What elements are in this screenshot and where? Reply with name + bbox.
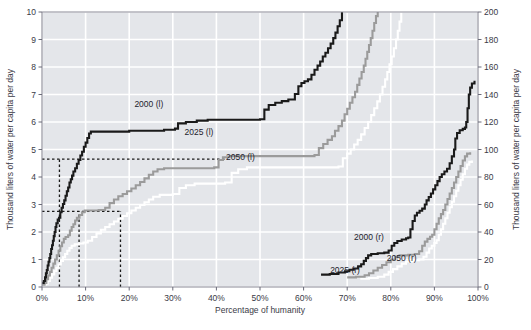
tick-label-right: 80 [484,172,494,182]
tick-label-right: 160 [484,62,498,72]
chart-canvas: 0123456789100204060801001201401601802000… [0,0,531,330]
tick-label-left: 9 [31,35,36,45]
tick-label-right: 140 [484,90,498,100]
tick-label-left: 6 [31,117,36,127]
series-annotation-2000-l: 2000 (l) [134,99,163,109]
tick-label-right: 40 [484,227,494,237]
tick-label-bottom: 90% [426,293,443,303]
tick-label-bottom: 70% [339,293,356,303]
y-axis-label-right: Thousand liters of water per capita per … [511,68,521,230]
tick-label-left: 3 [31,200,36,210]
tick-label-bottom: 80% [382,293,399,303]
tick-label-left: 10 [27,7,37,17]
tick-label-right: 120 [484,117,498,127]
tick-label-left: 5 [31,145,36,155]
series-annotation-2000-r: 2000 (r) [354,232,384,242]
tick-label-bottom: 40% [208,293,225,303]
tick-label-bottom: 20% [121,293,138,303]
chart-figure: 0123456789100204060801001201401601802000… [0,0,531,330]
tick-label-right: 100 [484,145,498,155]
tick-label-left: 7 [31,90,36,100]
tick-label-bottom: 100% [467,293,489,303]
series-annotation-2050-r: 2050 (r) [387,253,417,263]
tick-label-right: 0 [484,282,489,292]
series-annotation-2025-r: 2025 (r) [330,265,360,275]
tick-label-right: 20 [484,255,494,265]
tick-label-bottom: 0% [36,293,49,303]
tick-label-left: 4 [31,172,36,182]
tick-label-bottom: 60% [295,293,312,303]
tick-label-right: 60 [484,200,494,210]
tick-label-left: 2 [31,227,36,237]
tick-label-right: 180 [484,35,498,45]
series-annotation-2050-l: 2050 (l) [226,152,255,162]
tick-label-bottom: 50% [251,293,268,303]
tick-label-bottom: 30% [164,293,181,303]
tick-label-left: 0 [31,282,36,292]
tick-label-left: 8 [31,62,36,72]
series-annotation-2025-l: 2025 (l) [185,127,214,137]
tick-label-right: 200 [484,7,498,17]
tick-label-left: 1 [31,255,36,265]
tick-label-bottom: 10% [77,293,94,303]
y-axis-label-left: Thousand liters of water per capita per … [5,68,15,230]
x-axis-label: Percentage of humanity [215,305,306,315]
